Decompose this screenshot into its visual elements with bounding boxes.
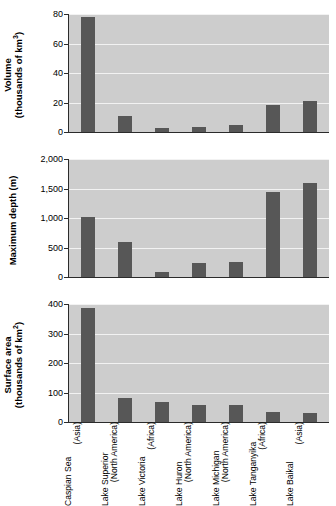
area-axis-title-exponent: 2 [12, 325, 19, 329]
gridline [69, 393, 329, 394]
category-region: (North America) [110, 422, 119, 506]
category-region: (Asia) [296, 422, 305, 506]
bar [155, 402, 169, 422]
bar [81, 217, 95, 277]
bar [192, 127, 206, 132]
category-region: (Asia) [73, 422, 82, 506]
bar [81, 17, 95, 132]
volume-plot-area [68, 14, 329, 133]
x-axis-category-labels: Caspian Sea(Asia)Lake Superior(North Ame… [0, 420, 336, 506]
volume-panel: Volume (thousands of km3) 806040200 [0, 10, 336, 140]
category-region: (Africa) [259, 422, 268, 506]
bar [155, 128, 169, 132]
y-tick-label: 20 [53, 98, 63, 107]
volume-axis-title-close: ) [13, 32, 24, 35]
area-axis-title-line1: Surface area [2, 336, 13, 393]
volume-axis-title-line2: (thousands of km [13, 39, 24, 118]
depth-axis-title-line1: Maximum depth (m) [8, 175, 19, 265]
gridline [69, 73, 329, 74]
bar [155, 272, 169, 277]
category-region: (Africa) [147, 422, 156, 506]
category-region: (North America) [184, 422, 193, 506]
three-panel-bar-chart-figure: Volume (thousands of km3) 806040200 Maxi… [0, 0, 336, 506]
bar [229, 262, 243, 277]
depth-plot-area [68, 159, 329, 278]
gridline [69, 14, 329, 15]
bar [118, 242, 132, 277]
gridline [69, 304, 329, 305]
volume-axis-title-line1: Volume [2, 58, 13, 92]
x-axis-category-label: Lake Victoria(Africa) [138, 422, 154, 506]
x-axis-category-label: Lake Michigan(North America) [212, 422, 228, 506]
volume-axis-title-exponent: 3 [12, 35, 19, 39]
gridline [69, 248, 329, 249]
area-y-axis-ticks: 4003002001000 [26, 300, 68, 430]
bar [303, 101, 317, 132]
gridline [69, 363, 329, 364]
gridline [69, 218, 329, 219]
y-tick-label: 40 [53, 69, 63, 78]
gridline [69, 44, 329, 45]
volume-axis-title: Volume (thousands of km3) [0, 10, 26, 140]
x-axis-category-label: Lake Superior(North America) [101, 422, 117, 506]
y-tick-label: 0 [58, 128, 63, 137]
y-tick-label: 100 [48, 388, 63, 397]
x-axis-category-label: Caspian Sea(Asia) [64, 422, 80, 506]
bar [118, 116, 132, 132]
y-tick-label: 2,000 [40, 155, 63, 164]
gridline [69, 189, 329, 190]
volume-y-axis-ticks: 806040200 [26, 10, 68, 140]
y-tick-label: 400 [48, 300, 63, 309]
x-axis-category-label: Lake Huron(North America) [175, 422, 191, 506]
area-axis-title-close: ) [13, 322, 24, 325]
bar [192, 263, 206, 277]
x-axis-category-label: Lake Tanganyika(Africa) [249, 422, 265, 506]
y-tick-label: 0 [58, 273, 63, 282]
gridline [69, 103, 329, 104]
bar [81, 308, 95, 422]
y-tick-label: 1,500 [40, 184, 63, 193]
y-tick-label: 60 [53, 39, 63, 48]
area-panel: Surface area (thousands of km2) 40030020… [0, 300, 336, 430]
bar [303, 183, 317, 277]
y-tick-label: 500 [48, 243, 63, 252]
gridline [69, 159, 329, 160]
y-tick-label: 300 [48, 329, 63, 338]
area-axis-title-line2: (thousands of km [13, 329, 24, 408]
bar [118, 398, 132, 422]
depth-axis-title: Maximum depth (m) [0, 155, 26, 285]
y-tick-label: 200 [48, 359, 63, 368]
depth-panel: Maximum depth (m) 2,0001,5001,0005000 [0, 155, 336, 285]
category-region: (North America) [222, 422, 231, 506]
y-tick-label: 80 [53, 10, 63, 19]
bar [266, 105, 280, 132]
depth-y-axis-ticks: 2,0001,5001,0005000 [26, 155, 68, 285]
x-axis-category-label: Lake Baikal(Asia) [286, 422, 302, 506]
bar [229, 125, 243, 132]
area-plot-area [68, 304, 329, 423]
y-tick-label: 1,000 [40, 214, 63, 223]
gridline [69, 334, 329, 335]
bar [266, 192, 280, 277]
area-axis-title: Surface area (thousands of km2) [0, 300, 26, 430]
